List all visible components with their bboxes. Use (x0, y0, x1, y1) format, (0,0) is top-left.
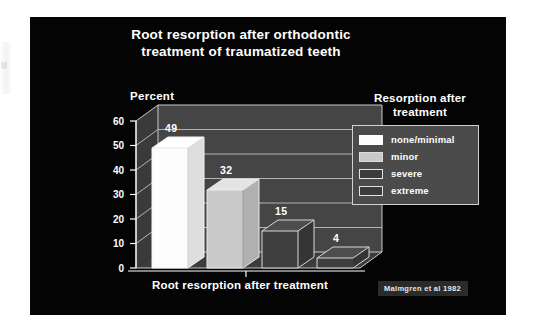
bar-severe (262, 220, 314, 268)
bar-value-minor: 32 (220, 164, 232, 176)
legend-title-line-1: Resorption after (348, 91, 492, 105)
slide-canvas: Root resorption after orthodontic treatm… (30, 17, 506, 315)
legend-item-none-minimal[interactable]: none/minimal (359, 132, 473, 147)
bar-none-minimal (152, 137, 204, 268)
legend-label-minor: minor (391, 151, 418, 162)
y-tick-label-60: 60 (102, 116, 124, 127)
legend-item-extreme[interactable]: extreme (359, 183, 473, 198)
x-axis-title: Root resorption after treatment (90, 279, 390, 291)
bar-minor (207, 179, 259, 268)
bar-value-none-minimal: 49 (165, 122, 177, 134)
legend-box: none/minimal minor severe extreme (352, 125, 479, 205)
legend-swatch-minor (359, 152, 383, 162)
legend-title-line-2: treatment (348, 105, 492, 119)
legend-title: Resorption after treatment (348, 91, 492, 119)
legend-swatch-none-minimal (359, 135, 383, 145)
y-tick-label-20: 20 (102, 214, 124, 225)
y-tick-label-0: 0 (102, 263, 124, 274)
legend-swatch-extreme (359, 186, 383, 196)
legend-swatch-severe (359, 169, 383, 179)
y-tick-label-50: 50 (102, 140, 124, 151)
y-axis (130, 121, 136, 268)
y-tick-label-40: 40 (102, 165, 124, 176)
legend-item-minor[interactable]: minor (359, 149, 473, 164)
bar-value-severe: 15 (275, 205, 287, 217)
bar-value-extreme: 4 (333, 232, 339, 244)
x-axis (128, 271, 365, 277)
y-tick-label-30: 30 (102, 189, 124, 200)
legend-item-severe[interactable]: severe (359, 166, 473, 181)
y-tick-label-10: 10 (102, 238, 124, 249)
legend-label-extreme: extreme (391, 185, 429, 196)
chart-legend: Resorption after treatment none/minimal … (348, 91, 492, 205)
scan-edge-artifact (0, 42, 12, 94)
legend-label-severe: severe (391, 168, 422, 179)
legend-label-none-minimal: none/minimal (391, 134, 455, 145)
source-citation: Malmgren et al 1982 (378, 281, 468, 296)
